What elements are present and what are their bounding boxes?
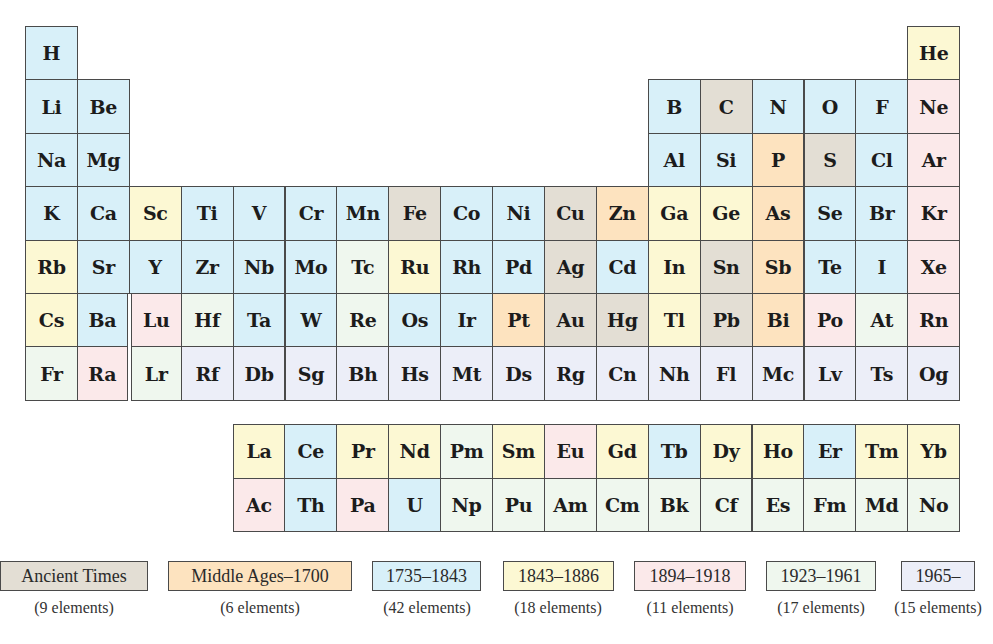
legend-count-c1735: (42 elements) <box>357 598 497 618</box>
legend-count-middle: (6 elements) <box>190 598 330 618</box>
legend-swatch-c1965: 1965– <box>901 561 975 591</box>
legend-swatch-c1735: 1735–1843 <box>372 561 481 591</box>
discovery-era-legend: Ancient Times(9 elements)Middle Ages–170… <box>0 0 993 644</box>
legend-count-c1894: (11 elements) <box>620 598 760 618</box>
legend-swatch-middle: Middle Ages–1700 <box>168 561 352 591</box>
legend-swatch-c1923: 1923–1961 <box>766 561 876 591</box>
legend-swatch-ancient: Ancient Times <box>0 561 148 591</box>
legend-swatch-c1843: 1843–1886 <box>503 561 614 591</box>
legend-count-ancient: (9 elements) <box>4 598 144 618</box>
legend-count-c1843: (18 elements) <box>488 598 628 618</box>
legend-swatch-c1894: 1894–1918 <box>634 561 746 591</box>
legend-count-c1965: (15 elements) <box>868 598 993 618</box>
